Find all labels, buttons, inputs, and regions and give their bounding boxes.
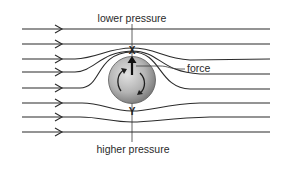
higher-pressure-label: higher pressure — [97, 143, 170, 155]
point-x-label: X — [129, 45, 136, 56]
magnus-effect-diagram: X Y lower pressure higher pressure force — [0, 0, 298, 173]
streamline-3 — [22, 48, 270, 60]
flow-arrows — [55, 25, 62, 136]
point-y-label: Y — [129, 106, 136, 117]
lower-pressure-label: lower pressure — [98, 12, 167, 24]
streamline-7 — [22, 117, 270, 122]
force-label: force — [187, 62, 211, 74]
